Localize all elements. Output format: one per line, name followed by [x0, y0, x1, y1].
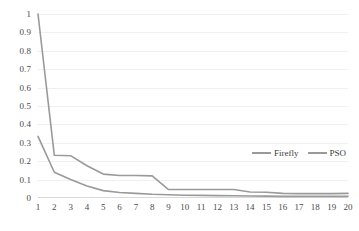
line-chart: 00.10.20.30.40.50.60.70.80.91 1234567891… — [0, 0, 359, 231]
y-axis-tick-label: 0.8 — [19, 46, 31, 56]
x-axis-tick-labels: 1234567891011121314151617181920 — [38, 200, 348, 222]
x-axis-tick-label: 18 — [311, 202, 320, 212]
series-line-pso — [38, 14, 348, 194]
legend-item-label: Firefly — [274, 148, 299, 158]
legend-line-icon — [252, 152, 271, 154]
series-line-firefly — [38, 136, 348, 196]
x-axis-tick-label: 9 — [166, 202, 171, 212]
x-axis-tick-label: 17 — [295, 202, 304, 212]
y-axis-tick-label: 0.5 — [19, 101, 31, 111]
x-axis-tick-label: 3 — [68, 202, 73, 212]
x-axis-tick-label: 6 — [117, 202, 122, 212]
x-axis-tick-label: 12 — [213, 202, 222, 212]
plot-area — [38, 14, 348, 198]
x-axis-tick-label: 1 — [36, 202, 41, 212]
legend-line-icon — [308, 152, 327, 154]
x-axis-tick-label: 20 — [344, 202, 353, 212]
legend-item-label: PSO — [330, 148, 347, 158]
x-axis-tick-label: 8 — [150, 202, 155, 212]
x-axis-tick-label: 2 — [52, 202, 57, 212]
y-axis-tick-label: 0.6 — [19, 83, 31, 93]
x-axis-tick-label: 15 — [262, 202, 271, 212]
x-axis-tick-label: 11 — [197, 202, 206, 212]
legend-item-firefly[interactable]: Firefly — [252, 148, 299, 158]
y-axis-tick-label: 0.9 — [19, 27, 31, 37]
legend-item-pso[interactable]: PSO — [308, 148, 347, 158]
x-axis-tick-label: 4 — [85, 202, 90, 212]
x-axis-tick-label: 5 — [101, 202, 106, 212]
x-axis-tick-label: 14 — [246, 202, 255, 212]
y-axis-tick-label: 1 — [26, 9, 31, 19]
y-axis-tick-label: 0.1 — [19, 175, 31, 185]
y-axis-tick-label: 0 — [26, 193, 31, 203]
x-axis-tick-label: 16 — [278, 202, 287, 212]
series-layer — [38, 14, 348, 198]
y-axis-tick-label: 0.2 — [19, 156, 31, 166]
x-axis-tick-label: 19 — [327, 202, 336, 212]
y-axis-tick-label: 0.7 — [19, 64, 31, 74]
y-axis-tick-label: 0.4 — [19, 119, 31, 129]
y-axis-tick-labels: 00.10.20.30.40.50.60.70.80.91 — [0, 14, 34, 198]
x-axis-tick-label: 13 — [229, 202, 238, 212]
x-axis-tick-label: 7 — [134, 202, 139, 212]
x-axis-tick-label: 10 — [180, 202, 189, 212]
y-axis-tick-label: 0.3 — [19, 138, 31, 148]
chart-legend: FireflyPSO — [252, 148, 346, 158]
